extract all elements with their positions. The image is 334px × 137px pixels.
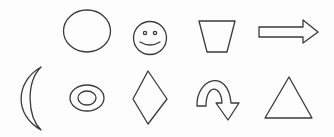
smiley-left-eye: [143, 31, 146, 34]
smiley-face-shape: [134, 22, 167, 55]
smiley-right-eye: [153, 31, 156, 34]
trapezoid-shape: [199, 21, 235, 52]
smiley-mouth: [140, 42, 160, 45]
triangle-shape: [265, 77, 312, 118]
shapes-figure: [0, 0, 334, 137]
right-arrow-shape: [259, 20, 318, 43]
crescent-shape: [21, 67, 41, 130]
ellipse-shape: [64, 10, 111, 52]
u-turn-arrow-shape: [197, 81, 239, 120]
shapes-svg: [0, 0, 334, 137]
inner-oval: [78, 91, 96, 105]
concentric-ovals-shape: [70, 85, 104, 111]
outer-oval: [70, 85, 104, 111]
diamond-shape: [133, 71, 167, 124]
